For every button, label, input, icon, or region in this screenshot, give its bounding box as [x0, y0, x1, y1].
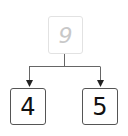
part-value-right: 5: [92, 93, 107, 121]
part-box-right: 5: [82, 88, 118, 125]
part-box-left: 4: [10, 88, 46, 125]
arrow-down-icon: [97, 80, 104, 87]
whole-value: 9: [59, 23, 73, 48]
whole-box: 9: [48, 16, 83, 54]
part-value-left: 4: [20, 93, 35, 121]
arrow-down-icon: [26, 80, 33, 87]
